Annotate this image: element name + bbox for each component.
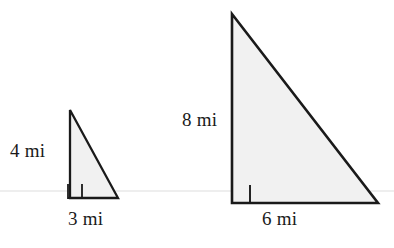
triangles-diagram: 4 mi 3 mi 8 mi 6 mi <box>0 0 394 248</box>
small-right-triangle <box>70 110 118 198</box>
large-right-triangle <box>232 14 378 203</box>
small-triangle-height-label: 4 mi <box>10 141 45 160</box>
small-triangle-base-label: 3 mi <box>68 209 103 228</box>
large-triangle-height-label: 8 mi <box>182 110 217 129</box>
large-triangle-base-label: 6 mi <box>262 209 297 228</box>
